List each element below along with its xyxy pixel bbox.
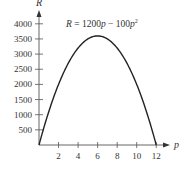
x-axis-label: p [173, 139, 179, 150]
x-tick-label: 4 [76, 151, 81, 161]
axes [37, 10, 171, 148]
y-tick-label: 3000 [14, 49, 33, 59]
x-tick-label: 6 [95, 151, 100, 161]
x-tick-label: 12 [152, 151, 161, 161]
x-tick-label: 2 [56, 151, 61, 161]
equation-label: R = 1200p − 100p2 [65, 18, 138, 29]
y-tick-label: 4000 [14, 19, 33, 29]
y-tick-label: 1000 [14, 110, 33, 120]
y-axis-label: R [35, 0, 42, 8]
revenue-parabola-chart: 24681012 5001000150020002500300035004000… [0, 0, 192, 169]
y-tick-label: 1500 [14, 95, 33, 105]
y-tick-label: 3500 [14, 34, 33, 44]
x-tick-label: 10 [132, 151, 142, 161]
y-tick-label: 2500 [14, 64, 33, 74]
y-tick-label: 2000 [14, 79, 33, 89]
parabola-curve [39, 36, 156, 145]
x-axis-arrow-icon [163, 143, 170, 148]
y-tick-label: 500 [19, 125, 33, 135]
y-axis-arrow-icon [37, 10, 42, 17]
x-tick-label: 8 [115, 151, 120, 161]
